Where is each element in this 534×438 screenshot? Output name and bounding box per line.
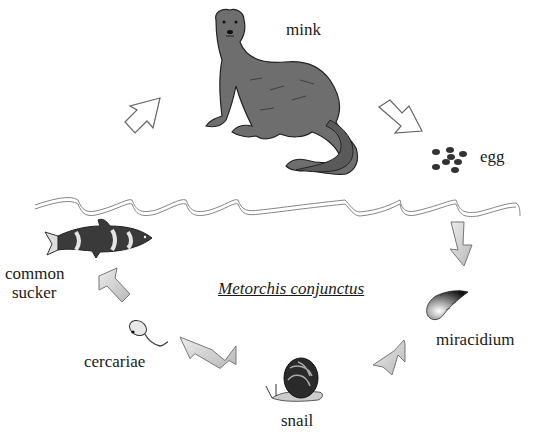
arrow-to-miracidium-icon <box>450 222 472 266</box>
arrow-to-egg-icon <box>379 100 422 133</box>
label-common-sucker-line2: sucker <box>12 284 56 302</box>
cercariae-icon <box>127 317 168 346</box>
arrow-to-snail-icon <box>373 340 405 375</box>
arrow-to-mink-icon <box>125 98 160 133</box>
label-miracidium: miracidium <box>436 331 514 349</box>
label-snail: snail <box>281 412 313 430</box>
label-mink: mink <box>286 21 321 39</box>
label-common-sucker-line1: common <box>5 265 65 283</box>
water-surface-line <box>35 197 520 216</box>
diagram-title: Metorchis conjunctus <box>218 279 364 299</box>
label-cercariae: cercariae <box>84 353 145 371</box>
eggs-icon <box>432 147 467 173</box>
miracidium-icon <box>427 290 468 320</box>
arrow-to-cercariae-icon <box>180 337 236 368</box>
mink-icon <box>206 9 358 174</box>
common-sucker-icon <box>45 219 152 258</box>
snail-icon <box>266 358 323 401</box>
arrow-to-sucker-icon <box>99 268 130 302</box>
label-egg: egg <box>480 148 505 166</box>
mink-illustration <box>0 0 534 438</box>
